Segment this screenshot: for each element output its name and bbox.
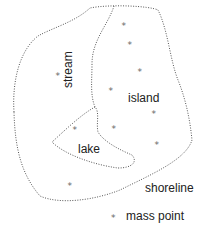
mass-point-icon: * xyxy=(109,86,114,96)
mass-point-icon: * xyxy=(56,71,61,81)
island-label: island xyxy=(128,91,159,105)
lake-label: lake xyxy=(78,142,100,156)
shoreline-outline xyxy=(14,6,192,201)
mass-point-icon: * xyxy=(155,140,160,150)
legend-mass-point-icon: * xyxy=(111,213,116,223)
mass-points: ********** xyxy=(56,21,160,191)
mass-point-icon: * xyxy=(112,124,117,134)
lake-outline xyxy=(52,107,134,168)
mass-point-icon: * xyxy=(122,21,127,31)
terrain-diagram: stream island lake shoreline ********** … xyxy=(0,0,208,231)
mass-point-icon: * xyxy=(128,40,133,50)
stream-label: stream xyxy=(61,51,75,88)
mass-point-icon: * xyxy=(73,125,78,135)
mass-point-icon: * xyxy=(138,67,143,77)
mass-point-icon: * xyxy=(68,181,73,191)
shoreline-label: shoreline xyxy=(145,181,194,195)
legend: * mass point xyxy=(111,209,185,223)
mass-point-icon: * xyxy=(152,109,157,119)
legend-mass-point-label: mass point xyxy=(126,209,185,223)
